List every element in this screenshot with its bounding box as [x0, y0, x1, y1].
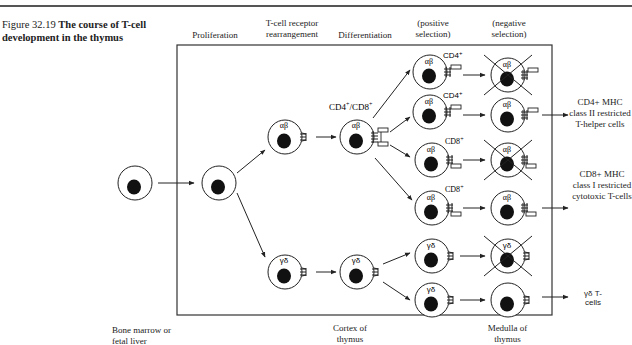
svg-text:αβ: αβ [352, 121, 360, 130]
svg-text:αβ: αβ [503, 60, 511, 69]
development-diagram: αβ γδ αβ CD4+/CD8+ γδ αβ CD4+ αβ CD4+ [0, 0, 632, 345]
rearranged-ab-cell: αβ [268, 120, 306, 154]
svg-text:αβ: αβ [280, 121, 288, 130]
positive-gd-cell-2: γδ [415, 283, 453, 317]
svg-text:CD4+: CD4+ [443, 50, 463, 60]
svg-text:αβ: αβ [427, 145, 435, 154]
positive-cd4-cell-1: αβ CD4+ [413, 50, 463, 89]
bone-marrow-cell [118, 166, 152, 200]
negative-gd-surviving-cell [491, 283, 529, 317]
svg-text:γδ: γδ [352, 256, 361, 265]
svg-text:γδ: γδ [280, 256, 289, 265]
svg-text:CD8+: CD8+ [445, 136, 464, 146]
svg-text:CD4+: CD4+ [443, 90, 463, 100]
svg-text:αβ: αβ [425, 57, 433, 66]
positive-cd4-cell-2: αβ CD4+ [413, 90, 463, 129]
rearranged-gd-cell: γδ [268, 255, 306, 289]
svg-text:γδ: γδ [503, 241, 512, 250]
positive-gd-cell-1: γδ [415, 239, 453, 273]
svg-text:αβ: αβ [425, 97, 433, 106]
positive-cd8-cell-1: αβ CD8+ [415, 136, 464, 177]
negative-cd8-deleted-cell: αβ [484, 140, 536, 180]
proliferating-cell [202, 166, 236, 200]
svg-text:γδ: γδ [427, 285, 436, 294]
negative-cd4-deleted-cell: αβ [484, 55, 538, 95]
svg-text:αβ: αβ [427, 193, 435, 202]
negative-cd8-surviving-cell: αβ [491, 191, 536, 225]
svg-text:γδ: γδ [427, 241, 436, 250]
svg-text:αβ: αβ [503, 193, 511, 202]
negative-gd-deleted-cell: γδ [484, 236, 532, 276]
svg-text:αβ: αβ [503, 145, 511, 154]
positive-cd8-cell-2: αβ CD8+ [415, 184, 464, 225]
svg-text:αβ: αβ [503, 100, 511, 109]
cd4cd8-label: CD4+/CD8+ [329, 101, 373, 112]
double-positive-cell: αβ CD4+/CD8+ [329, 101, 388, 154]
differentiated-gd-cell: γδ [340, 255, 378, 289]
svg-text:CD8+: CD8+ [445, 184, 464, 194]
negative-cd4-surviving-cell: αβ [491, 98, 538, 132]
